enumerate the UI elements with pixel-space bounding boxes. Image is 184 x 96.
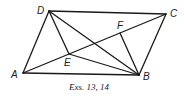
label-e: E (64, 57, 71, 68)
segment-cd (49, 11, 166, 14)
diagonal-db (49, 11, 139, 75)
label-a: A (10, 69, 18, 80)
caption: Exs. 13, 14 (68, 82, 109, 92)
parallelogram-diagram: D C F E A B Exs. 13, 14 (0, 0, 184, 96)
label-b: B (143, 71, 150, 82)
label-c: C (170, 8, 178, 19)
segment-ab (23, 73, 139, 75)
label-f: F (117, 20, 124, 31)
segment-eb (69, 54, 139, 75)
label-d: D (37, 5, 44, 16)
